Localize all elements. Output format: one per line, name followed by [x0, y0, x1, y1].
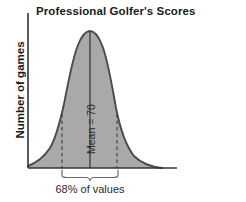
- interval-annotation-label: 68% of values: [20, 183, 160, 195]
- plot-area: [0, 0, 246, 202]
- mean-annotation-label: Mean = 70: [85, 79, 97, 179]
- normal-distribution-chart: Professional Golfer's Scores Number of g…: [0, 0, 246, 202]
